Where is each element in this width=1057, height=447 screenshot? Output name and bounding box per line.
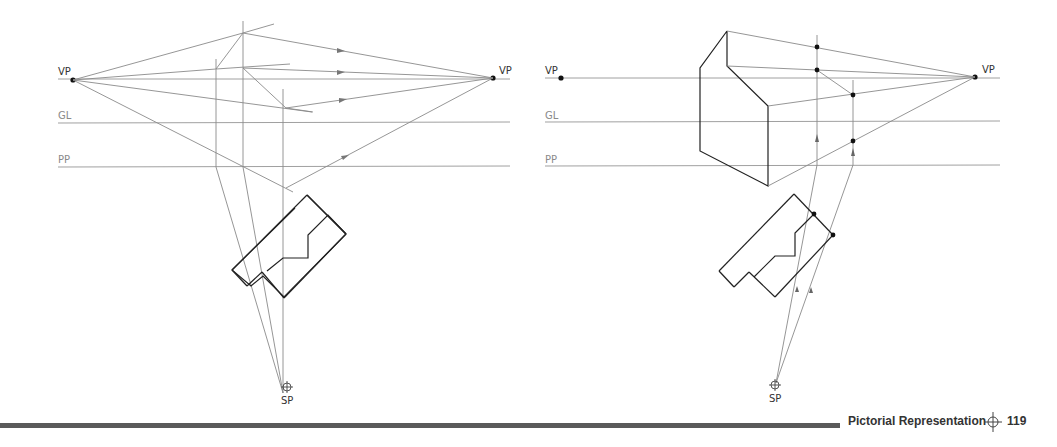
perspective-drawings: VP VP GL PP SP — [0, 0, 1057, 447]
label-vp-right-r: VP — [982, 64, 995, 75]
plan-inner-right — [754, 214, 814, 277]
picture-plane-line-right — [545, 165, 1000, 166]
ground-line-right — [545, 121, 1000, 122]
label-gl: GL — [58, 110, 72, 121]
footer-rule — [0, 423, 840, 428]
label-pp-r: PP — [545, 154, 557, 165]
label-sp-r: SP — [769, 393, 781, 404]
left-figure: VP VP GL PP SP — [58, 21, 512, 406]
label-pp: PP — [58, 154, 70, 165]
label-gl-r: GL — [545, 110, 559, 121]
label-vp-left-r: VP — [545, 65, 558, 76]
ground-line-left — [58, 122, 510, 123]
picture-plane-line-left — [58, 166, 510, 167]
plan-view-left — [232, 195, 346, 297]
label-sp: SP — [281, 395, 293, 406]
station-point-right — [769, 379, 781, 391]
label-vp-left: VP — [58, 66, 71, 77]
house-perspective — [700, 31, 768, 186]
right-figure: VP VP GL PP SP — [545, 31, 1000, 404]
label-vp-right: VP — [499, 65, 512, 76]
page-number: 119 — [1007, 414, 1026, 428]
vp-left-point-right — [558, 75, 563, 80]
crosshair-icon — [983, 411, 1003, 433]
section-title: Pictorial Representation — [848, 414, 986, 428]
